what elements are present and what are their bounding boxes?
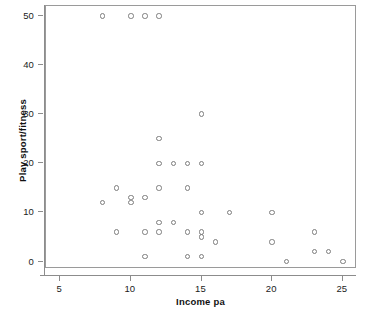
- data-point: [142, 229, 147, 234]
- data-point: [213, 239, 218, 244]
- x-tick-mark: [130, 276, 131, 281]
- data-point: [156, 136, 161, 141]
- data-point: [312, 229, 317, 234]
- data-point: [185, 254, 190, 259]
- data-point: [128, 13, 133, 18]
- y-tick-label: 0: [0, 255, 34, 266]
- x-tick-label: 20: [256, 283, 286, 294]
- x-axis-title: Income pa: [45, 296, 356, 307]
- x-axis-line: [40, 275, 356, 276]
- data-point: [156, 185, 161, 190]
- data-point: [156, 13, 161, 18]
- data-point: [171, 220, 176, 225]
- x-tick-mark: [271, 276, 272, 281]
- x-tick-mark: [59, 276, 60, 281]
- data-point: [199, 234, 204, 239]
- data-point: [312, 249, 317, 254]
- data-point: [142, 13, 147, 18]
- x-tick-mark: [342, 276, 343, 281]
- y-tick-mark: [38, 162, 43, 163]
- y-tick-mark: [38, 113, 43, 114]
- data-point: [227, 210, 232, 215]
- data-point: [199, 111, 204, 116]
- data-point: [114, 229, 119, 234]
- data-point: [340, 259, 345, 264]
- y-tick-mark: [38, 64, 43, 65]
- data-point: [156, 220, 161, 225]
- data-point: [171, 161, 176, 166]
- data-point: [185, 185, 190, 190]
- y-axis-line: [44, 5, 45, 275]
- data-point: [100, 13, 105, 18]
- y-tick-mark: [38, 15, 43, 16]
- data-point: [269, 239, 274, 244]
- plot-area: [45, 5, 356, 268]
- x-tick-label: 5: [44, 283, 74, 294]
- data-point: [100, 200, 105, 205]
- data-point: [156, 229, 161, 234]
- data-point: [185, 229, 190, 234]
- data-point: [199, 161, 204, 166]
- scatter-chart: 01020304050 510152025 Income pa Play spo…: [0, 0, 366, 315]
- data-point: [269, 210, 274, 215]
- data-point: [114, 185, 119, 190]
- data-points-layer: [46, 6, 355, 267]
- data-point: [142, 195, 147, 200]
- y-axis-title: Play sport/fitness: [17, 56, 28, 226]
- data-point: [284, 259, 289, 264]
- y-tick-mark: [38, 261, 43, 262]
- data-point: [199, 254, 204, 259]
- x-tick-label: 10: [115, 283, 145, 294]
- y-tick-label: 50: [0, 9, 34, 20]
- data-point: [199, 210, 204, 215]
- data-point: [128, 200, 133, 205]
- x-tick-label: 15: [186, 283, 216, 294]
- data-point: [142, 254, 147, 259]
- x-tick-mark: [201, 276, 202, 281]
- data-point: [156, 161, 161, 166]
- data-point: [185, 161, 190, 166]
- x-tick-label: 25: [327, 283, 357, 294]
- y-tick-mark: [38, 211, 43, 212]
- data-point: [326, 249, 331, 254]
